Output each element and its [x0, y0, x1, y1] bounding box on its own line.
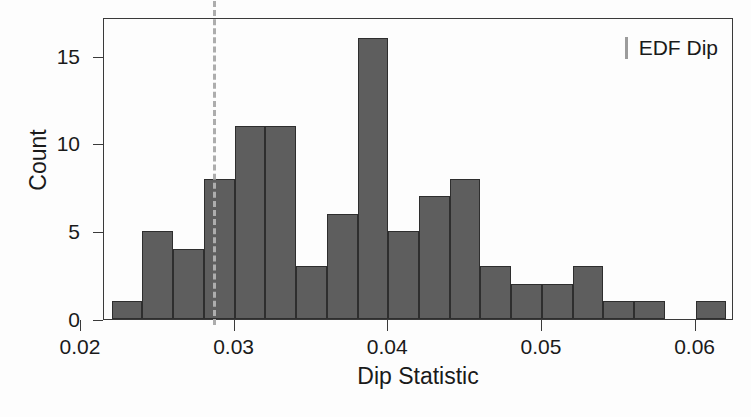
x-tick-label: 0.04 — [342, 336, 432, 358]
x-tick-mark — [234, 320, 235, 331]
y-tick-label: 5 — [22, 221, 80, 242]
x-tick-mark — [541, 320, 542, 331]
x-tick-label: 0.05 — [496, 336, 586, 358]
y-tick-mark — [93, 320, 103, 321]
x-tick-label: 0.06 — [650, 336, 740, 358]
x-tick-label: 0.02 — [35, 336, 125, 358]
y-tick-label: 10 — [22, 133, 80, 154]
legend: EDF Dip — [625, 37, 718, 59]
y-tick-mark — [93, 57, 103, 58]
x-tick-label: 0.03 — [189, 336, 279, 358]
edf-dip-reference-line — [213, 1, 216, 325]
x-tick-mark — [695, 320, 696, 331]
y-tick-label: 15 — [22, 46, 80, 67]
x-tick-mark — [80, 320, 81, 331]
legend-item-label: EDF Dip — [639, 37, 718, 59]
x-tick-mark — [387, 320, 388, 331]
edf-dip-legend-key-icon — [625, 37, 628, 59]
plot-area: EDF Dip — [103, 18, 733, 320]
y-tick-mark — [93, 144, 103, 145]
y-tick-label: 0 — [22, 309, 80, 330]
histogram-figure: Count 051015 EDF Dip 0.020.030.040.050.0… — [0, 0, 751, 417]
y-tick-mark — [93, 232, 103, 233]
reference-lines-layer — [104, 19, 732, 319]
x-axis-title: Dip Statistic — [103, 364, 733, 388]
